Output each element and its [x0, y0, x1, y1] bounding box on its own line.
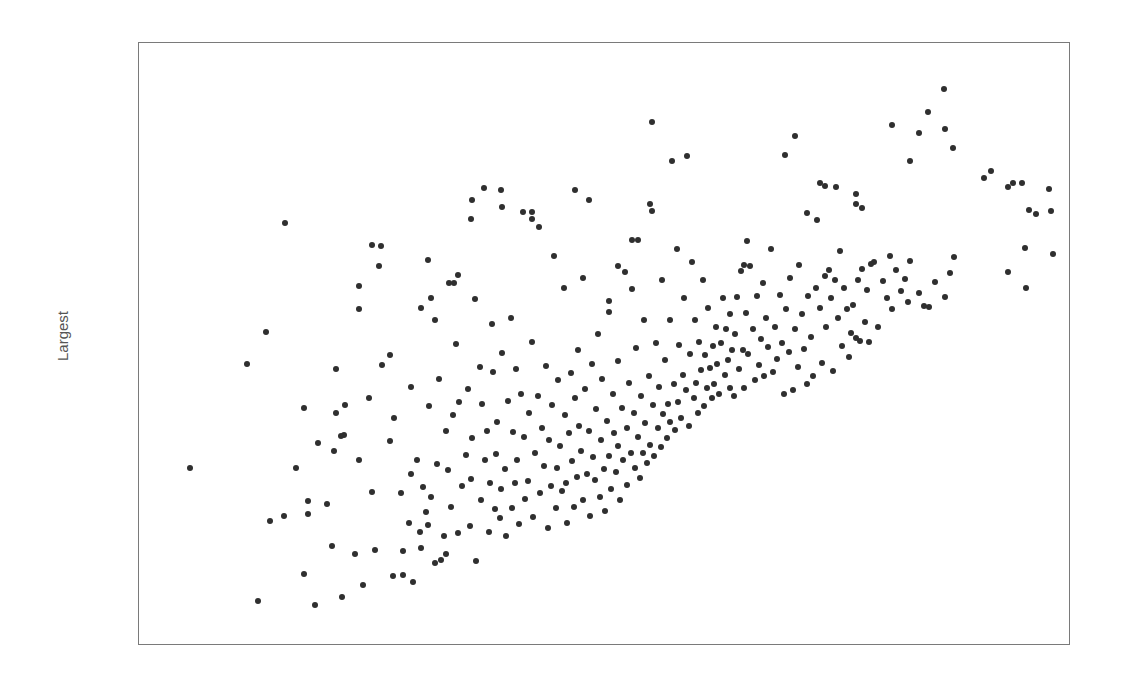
data-point: [267, 518, 273, 524]
data-point: [669, 158, 675, 164]
data-point: [572, 187, 578, 193]
data-point: [799, 311, 805, 317]
data-point: [707, 365, 713, 371]
data-point: [950, 145, 956, 151]
data-point: [893, 267, 899, 273]
data-point: [678, 415, 684, 421]
data-point: [606, 298, 612, 304]
data-point: [530, 514, 536, 520]
data-point: [369, 489, 375, 495]
data-point: [589, 361, 595, 367]
data-point: [819, 360, 825, 366]
data-point: [541, 463, 547, 469]
data-point: [781, 391, 787, 397]
data-point: [693, 380, 699, 386]
data-point: [649, 208, 655, 214]
data-point: [521, 434, 527, 440]
data-point: [655, 425, 661, 431]
data-point: [942, 126, 948, 132]
data-point: [450, 412, 456, 418]
data-point: [417, 529, 423, 535]
data-point: [916, 130, 922, 136]
data-point: [783, 306, 789, 312]
data-point: [490, 369, 496, 375]
data-point: [1050, 251, 1056, 257]
data-point: [372, 547, 378, 553]
data-point: [338, 433, 344, 439]
data-point: [414, 457, 420, 463]
data-point: [508, 315, 514, 321]
data-point: [660, 411, 666, 417]
data-point: [635, 434, 641, 440]
data-point: [456, 399, 462, 405]
data-point: [641, 317, 647, 323]
data-point: [629, 237, 635, 243]
data-point: [790, 387, 796, 393]
data-point: [1023, 285, 1029, 291]
data-point: [839, 343, 845, 349]
data-point: [650, 402, 656, 408]
data-point: [502, 466, 508, 472]
data-point: [804, 210, 810, 216]
data-point: [692, 317, 698, 323]
data-point: [887, 253, 893, 259]
data-point: [774, 356, 780, 362]
data-point: [622, 269, 628, 275]
data-point: [792, 326, 798, 332]
data-point: [282, 220, 288, 226]
data-point: [651, 453, 657, 459]
data-point: [499, 350, 505, 356]
data-point: [536, 224, 542, 230]
data-point: [695, 410, 701, 416]
data-point: [658, 444, 664, 450]
data-point: [482, 457, 488, 463]
data-point: [487, 480, 493, 486]
data-point: [492, 506, 498, 512]
data-point: [859, 205, 865, 211]
plot-area: [138, 42, 1070, 645]
data-point: [844, 306, 850, 312]
data-point: [744, 238, 750, 244]
data-point: [608, 486, 614, 492]
data-point: [727, 311, 733, 317]
data-point: [438, 557, 444, 563]
data-point: [868, 261, 874, 267]
data-point: [624, 482, 630, 488]
data-point: [942, 294, 948, 300]
data-point: [398, 490, 404, 496]
data-point: [529, 339, 535, 345]
data-point: [725, 357, 731, 363]
data-point: [391, 415, 397, 421]
data-point: [503, 533, 509, 539]
data-point: [459, 483, 465, 489]
data-point: [535, 393, 541, 399]
data-point: [734, 294, 740, 300]
data-point: [787, 275, 793, 281]
data-point: [691, 395, 697, 401]
data-point: [539, 425, 545, 431]
data-point: [718, 340, 724, 346]
data-point: [445, 467, 451, 473]
data-point: [857, 338, 863, 344]
data-point: [352, 551, 358, 557]
data-point: [244, 361, 250, 367]
data-point: [642, 420, 648, 426]
data-point: [356, 306, 362, 312]
data-point: [602, 508, 608, 514]
data-point: [529, 209, 535, 215]
data-point: [674, 246, 680, 252]
data-point: [698, 367, 704, 373]
data-point: [671, 381, 677, 387]
data-point: [520, 209, 526, 215]
data-point: [469, 435, 475, 441]
data-point: [400, 548, 406, 554]
data-point: [889, 306, 895, 312]
data-point: [714, 361, 720, 367]
data-point: [941, 86, 947, 92]
data-point: [543, 363, 549, 369]
data-point: [779, 340, 785, 346]
data-point: [559, 488, 565, 494]
data-point: [513, 366, 519, 372]
data-point: [453, 341, 459, 347]
data-point: [468, 216, 474, 222]
